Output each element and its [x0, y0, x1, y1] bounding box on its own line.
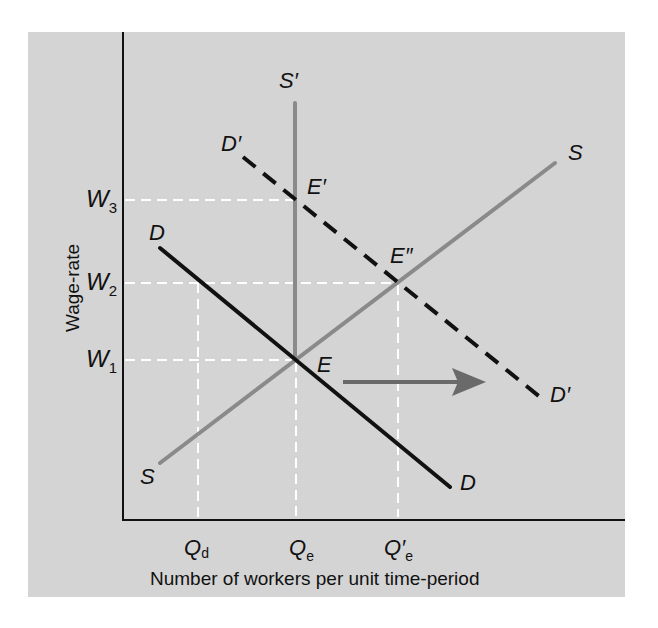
y-axis-title: Wage-rate [62, 244, 83, 332]
label-d-prime-bottom: D′ [550, 382, 571, 407]
label-e: E [317, 352, 332, 377]
label-s-bottom: S [140, 464, 155, 489]
label-e-prime: E′ [307, 174, 327, 199]
x-axis-title: Number of workers per unit time-period [150, 568, 479, 589]
figure-panel [28, 32, 625, 597]
label-e-double-prime: E″ [390, 243, 414, 268]
label-d-prime-top: D′ [221, 131, 242, 156]
labour-market-diagram: S′ D′ E′ D S E″ E D′ D S W3 W2 W1 Qd Qe … [0, 0, 658, 628]
label-d-bottom: D [460, 470, 476, 495]
label-d-top: D [149, 220, 165, 245]
label-s-top: S [568, 140, 583, 165]
label-s-prime: S′ [279, 68, 299, 93]
